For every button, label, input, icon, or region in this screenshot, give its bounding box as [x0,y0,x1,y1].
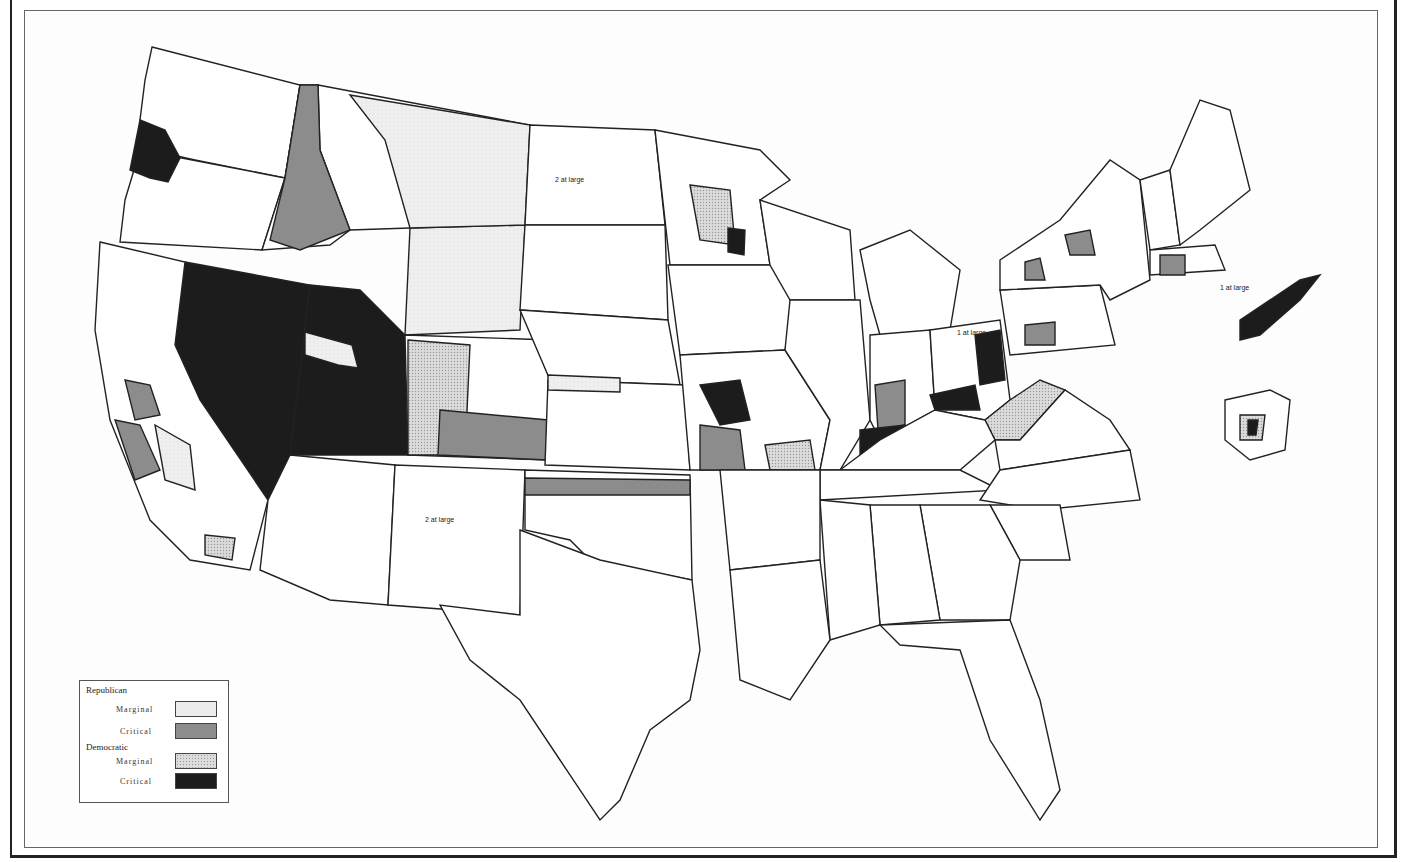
district-oh-16 [975,330,1005,385]
state-iowa [668,265,795,355]
district-ks-1 [548,375,620,392]
state-tennessee [820,470,1000,500]
legend-swatch-rep-critical [175,723,217,739]
legend-group-democratic: Democratic [86,742,128,752]
legend-group-republican: Republican [86,685,127,695]
legend-swatch-dem-marginal [175,753,217,769]
district-ok-strip [525,478,690,495]
legend: Republican Marginal Critical Democratic … [79,680,229,803]
state-north-dakota [525,125,665,225]
state-maine [1170,100,1250,245]
state-louisiana [730,560,830,700]
state-new-mexico [388,465,525,615]
state-arkansas [720,470,820,570]
state-south-dakota [520,225,668,320]
district-ma-rep [1160,255,1185,275]
district-in-7 [875,380,905,430]
state-mississippi [820,500,880,640]
district-mo-rep [700,425,745,470]
legend-label-dem-critical: Critical [120,777,152,786]
state-kansas [545,380,690,470]
district-pa-26 [1025,322,1055,345]
state-michigan [860,230,960,335]
legend-label-rep-marginal: Marginal [116,705,153,714]
state-florida [880,620,1060,820]
legend-label-dem-marginal: Marginal [116,757,153,766]
legend-swatch-rep-marginal [175,701,217,717]
legend-label-rep-critical: Critical [120,727,152,736]
district-mo-8 [765,440,815,470]
district-ca-23 [205,535,235,560]
district-ny-35 [1065,230,1095,255]
label-nm: 2 at large [425,516,454,524]
state-arizona [260,455,395,605]
label-ct-at-large: 1 at large [1220,284,1249,292]
state-utah [290,285,408,455]
state-pennsylvania [1000,285,1115,355]
inset-long-island [1240,275,1320,340]
state-wyoming [405,225,525,335]
label-nd: 2 at large [555,176,584,184]
states [95,47,1320,820]
inset-nj-black [1248,420,1258,435]
legend-swatch-dem-critical [175,773,217,789]
district-mn-5 [728,228,745,255]
label-oh-at-large: 1 at large [957,329,986,337]
state-new-york [1000,160,1150,300]
